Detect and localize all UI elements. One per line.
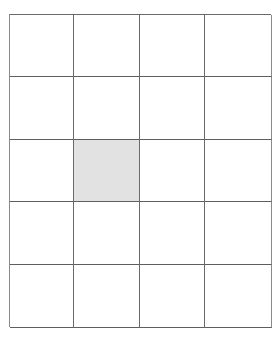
grid-cell [140, 140, 205, 202]
grid-cell [74, 202, 140, 265]
grid-cell [140, 15, 205, 77]
grid-cell [74, 15, 140, 77]
grid-cell [10, 265, 74, 328]
grid-cell [205, 77, 272, 140]
grid-cell [10, 15, 74, 77]
grid-cell [10, 202, 74, 265]
grid-cell [205, 265, 272, 328]
grid-cell-shaded [74, 140, 140, 202]
grid-cell [205, 15, 272, 77]
grid-cell [10, 77, 74, 140]
grid [9, 14, 271, 327]
grid-cell [140, 202, 205, 265]
grid-cell [140, 265, 205, 328]
grid-cell [74, 77, 140, 140]
grid-cell [205, 140, 272, 202]
grid-cell [10, 140, 74, 202]
grid-cell [205, 202, 272, 265]
grid-cell [74, 265, 140, 328]
grid-cell [140, 77, 205, 140]
